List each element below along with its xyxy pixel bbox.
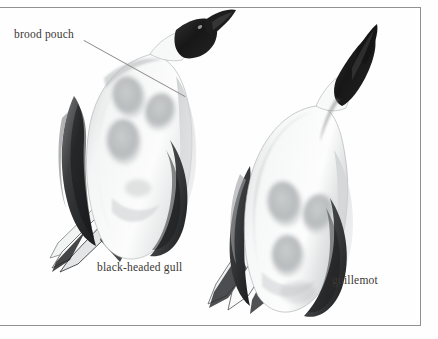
label-guillemot: guillemot [332, 274, 378, 286]
bird-illustration-artwork [0, 0, 438, 339]
illustration-plate: brood pouch black-headed gull guillemot [0, 0, 438, 339]
label-brood-pouch: brood pouch [14, 28, 74, 40]
label-black-headed-gull: black-headed gull [97, 261, 182, 273]
